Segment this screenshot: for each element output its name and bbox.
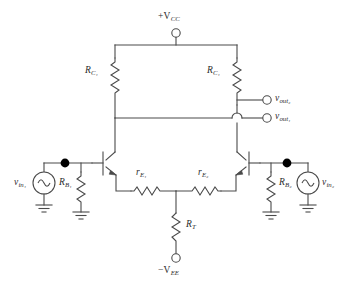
emitter-arrow-right <box>236 171 243 176</box>
source-left <box>33 172 55 212</box>
vout1-label: vout₁ <box>275 112 290 122</box>
rb2-label: RB₂ <box>279 178 292 188</box>
re2-label: rE₂ <box>198 168 208 178</box>
vcc-terminal[interactable] <box>172 29 180 37</box>
vee-terminal[interactable] <box>172 254 180 262</box>
collector-resistor-right <box>233 58 241 105</box>
vee-label: −VEE <box>158 266 179 276</box>
tail-branch <box>172 191 180 262</box>
rb1-label: RB₁ <box>59 178 72 188</box>
rc1-right-label: RC₁ <box>207 66 220 76</box>
re1-label: rE₁ <box>136 168 146 178</box>
vout2-terminal[interactable] <box>263 96 271 104</box>
transistor-left <box>92 152 116 175</box>
vout2-tap <box>237 96 271 104</box>
vout1-line <box>115 113 271 122</box>
vout1-terminal[interactable] <box>263 114 271 122</box>
vcc-rail <box>115 29 237 58</box>
vcc-label: +VCC <box>158 12 180 22</box>
schematic-canvas: +VCC RC₁ RC₁ vout₂ vout₁ rE₁ rE₂ RT −VEE… <box>0 0 352 287</box>
circuit-schematic <box>0 0 352 287</box>
rt-label: RT <box>186 220 196 230</box>
vin2-label: vin₂ <box>322 178 334 188</box>
rc1-left-label: RC₁ <box>85 66 98 76</box>
source-right <box>297 172 319 212</box>
vin1-label: vin₁ <box>14 178 26 188</box>
vout2-label: vout₂ <box>275 94 290 104</box>
collector-resistor-left <box>111 58 119 118</box>
transistor-right <box>236 152 260 175</box>
node-dot-left <box>61 159 70 168</box>
emitter-arrow-left <box>109 171 116 176</box>
node-dot-right <box>283 159 292 168</box>
